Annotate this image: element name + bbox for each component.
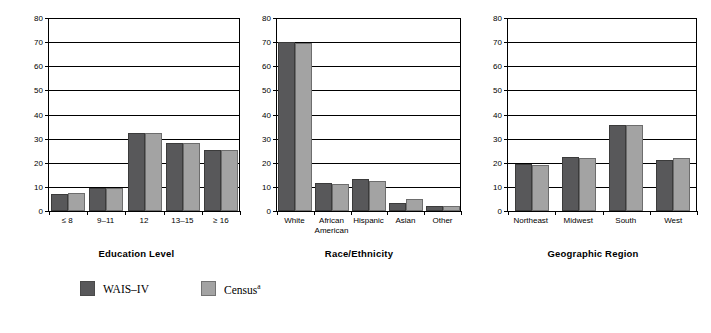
bar <box>673 158 690 211</box>
x-axis-labels: ≤ 89–111213–15≥ 16 <box>48 216 240 242</box>
x-axis-tick <box>314 211 315 215</box>
y-axis-tick-label: 50 <box>237 86 271 95</box>
x-axis-tick-label: Other <box>424 216 461 242</box>
y-axis-tick-label: 30 <box>9 134 43 143</box>
x-axis-tick <box>461 211 462 215</box>
bar <box>515 164 532 211</box>
x-axis-tick-label: Asian <box>387 216 424 242</box>
bar-group <box>202 18 240 211</box>
x-axis-tick-label: 12 <box>125 216 163 242</box>
y-axis-tick-label: 40 <box>9 110 43 119</box>
x-axis-tick-label: Midwest <box>555 216 603 242</box>
y-axis-tick-label: 60 <box>468 62 502 71</box>
bar-group <box>508 18 555 211</box>
legend-label: Censusa <box>224 282 261 296</box>
y-axis-tick-label: 0 <box>237 207 271 216</box>
x-axis-tick <box>555 211 556 215</box>
bar-group <box>87 18 125 211</box>
bar <box>221 150 238 211</box>
bar-group <box>314 18 351 211</box>
legend-item: Censusa <box>201 281 261 296</box>
x-axis-tick-label: Northeast <box>507 216 555 242</box>
y-axis-tick-label: 20 <box>237 158 271 167</box>
y-axis-tick-label: 40 <box>237 110 271 119</box>
bar <box>579 158 596 211</box>
y-axis-tick-label: 50 <box>9 86 43 95</box>
x-axis-tick <box>650 211 651 215</box>
x-axis-tick <box>603 211 604 215</box>
y-axis-tick-label: 10 <box>237 182 271 191</box>
legend-label-text: Census <box>224 283 257 295</box>
x-axis-title: Education Level <box>0 248 243 259</box>
y-axis-tick-label: 30 <box>468 134 502 143</box>
bar-group <box>555 18 602 211</box>
bar <box>145 133 162 211</box>
x-axis-tick <box>508 211 509 215</box>
x-axis-tick-label: ≤ 8 <box>48 216 86 242</box>
legend-item: WAIS–IV <box>80 281 149 296</box>
bar <box>426 206 443 211</box>
y-axis-tick-label: 10 <box>9 182 43 191</box>
y-axis-tick-label: 30 <box>237 134 271 143</box>
bar <box>315 183 332 211</box>
y-axis-tick-label: 40 <box>468 110 502 119</box>
bar <box>369 181 386 211</box>
x-axis-tick-label: 13–15 <box>163 216 201 242</box>
bar-group <box>125 18 163 211</box>
x-axis-tick-label: 9–11 <box>86 216 124 242</box>
y-axis-tick-label: 10 <box>468 182 502 191</box>
x-axis-tick <box>164 211 165 215</box>
bar <box>128 133 145 211</box>
bar <box>352 179 369 211</box>
y-axis-tick-label: 50 <box>468 86 502 95</box>
x-axis-tick <box>87 211 88 215</box>
chart-panel-1: 01020304050607080WhiteAfrican AmericanHi… <box>243 0 475 268</box>
y-axis-tick-label: 60 <box>237 62 271 71</box>
plot-area: 01020304050607080 <box>276 18 461 212</box>
legend-swatch <box>201 281 216 296</box>
x-axis-tick-label: White <box>276 216 313 242</box>
chart-panel-2: 01020304050607080NortheastMidwestSouthWe… <box>475 0 711 268</box>
bar <box>332 184 349 211</box>
bar-group <box>387 18 424 211</box>
bar-group <box>603 18 650 211</box>
y-axis-tick-label: 20 <box>468 158 502 167</box>
bar <box>656 160 673 211</box>
bar <box>609 125 626 211</box>
chart-panel-0: Percentage01020304050607080≤ 89–111213–1… <box>0 0 243 268</box>
legend-label-superscript: a <box>257 282 260 291</box>
y-axis-tick-label: 80 <box>468 14 502 23</box>
chart-legend: WAIS–IVCensusa <box>80 281 313 296</box>
y-axis-tick-label: 70 <box>9 38 43 47</box>
x-axis-title: Race/Ethnicity <box>243 248 475 259</box>
x-axis-labels: NortheastMidwestSouthWest <box>507 216 697 242</box>
legend-swatch <box>80 281 95 296</box>
x-axis-tick-label: ≥ 16 <box>202 216 240 242</box>
bar <box>295 43 312 211</box>
bar <box>51 194 68 211</box>
x-axis-tick-label: Hispanic <box>350 216 387 242</box>
figure-panel-group: Percentage01020304050607080≤ 89–111213–1… <box>0 0 711 333</box>
y-axis-tick-label: 70 <box>237 38 271 47</box>
x-axis-tick <box>202 211 203 215</box>
bar <box>106 188 123 211</box>
legend-label: WAIS–IV <box>103 283 149 295</box>
bar-series-container <box>508 18 697 211</box>
bar <box>443 206 460 211</box>
x-axis-tick <box>697 211 698 215</box>
bar-series-container <box>49 18 240 211</box>
x-axis-tick-label: South <box>602 216 650 242</box>
x-axis-tick-label: African American <box>313 216 350 242</box>
plot-area: 01020304050607080 <box>507 18 697 212</box>
y-axis-tick-label: 80 <box>9 14 43 23</box>
bar <box>532 165 549 211</box>
bar <box>406 199 423 211</box>
bar-group <box>424 18 461 211</box>
bar-group <box>650 18 697 211</box>
bar <box>89 188 106 211</box>
y-axis-tick-label: 0 <box>468 207 502 216</box>
bar <box>183 143 200 211</box>
bar <box>278 42 295 211</box>
bar <box>204 150 221 211</box>
y-axis-tick-label: 60 <box>9 62 43 71</box>
